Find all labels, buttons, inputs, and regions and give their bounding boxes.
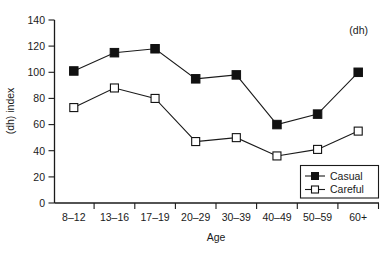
x-axis-title: Age — [207, 231, 226, 243]
x-tick-label: 20–29 — [181, 211, 210, 223]
y-tick-label: 60 — [33, 118, 45, 130]
panel-annotation: (dh) — [349, 24, 368, 36]
y-tick-label: 120 — [27, 40, 45, 52]
y-tick-label: 0 — [39, 197, 45, 209]
y-axis-title: (dh) index — [4, 87, 16, 134]
data-point — [232, 134, 240, 142]
x-tick-label: 8–12 — [62, 211, 86, 223]
legend-label-casual: Casual — [330, 170, 363, 182]
data-point — [151, 94, 159, 102]
x-tick-label: 13–16 — [100, 211, 129, 223]
data-point — [110, 84, 118, 92]
x-tick-label: 60+ — [349, 211, 367, 223]
series-careful — [70, 84, 362, 160]
data-point — [273, 120, 282, 129]
y-axis-tick-labels: 0 20 40 60 80 100 120 140 — [27, 14, 45, 209]
x-axis-ticks — [94, 203, 378, 209]
series-layer — [70, 45, 363, 160]
y-tick-label: 140 — [27, 14, 45, 26]
data-point — [314, 145, 322, 153]
x-tick-label: 40–49 — [262, 211, 291, 223]
data-point — [70, 67, 79, 76]
x-tick-label: 30–39 — [222, 211, 251, 223]
legend-marker-open-square — [312, 186, 319, 193]
y-tick-label: 80 — [33, 92, 45, 104]
data-point — [192, 138, 200, 146]
legend-label-careful: Careful — [330, 183, 364, 195]
data-point — [110, 48, 119, 57]
data-point — [313, 110, 322, 119]
data-point — [151, 45, 160, 54]
x-axis-tick-labels: 8–12 13–16 17–19 20–29 30–39 40–49 50–59… — [62, 211, 367, 223]
chart-figure: 0 20 40 60 80 100 120 140 8–12 13–16 17–… — [0, 0, 390, 253]
data-point — [273, 152, 281, 160]
y-tick-label: 40 — [33, 145, 45, 157]
data-point — [354, 68, 363, 77]
y-tick-label: 20 — [33, 171, 45, 183]
data-point — [191, 75, 200, 84]
data-point — [232, 71, 241, 80]
chart-legend: Casual Careful — [301, 166, 379, 199]
data-point — [354, 127, 362, 135]
y-tick-label: 100 — [27, 66, 45, 78]
x-tick-label: 50–59 — [303, 211, 332, 223]
legend-marker-filled-square — [312, 173, 319, 180]
chart-svg: 0 20 40 60 80 100 120 140 8–12 13–16 17–… — [0, 0, 390, 253]
y-axis-ticks — [49, 20, 55, 203]
data-point — [70, 104, 78, 112]
x-tick-label: 17–19 — [140, 211, 169, 223]
